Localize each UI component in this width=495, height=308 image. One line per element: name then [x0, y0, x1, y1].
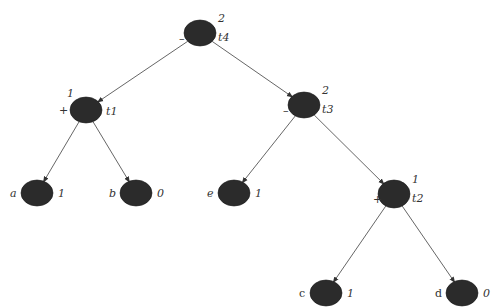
edges-layer	[43, 41, 454, 282]
node-name-label: t3	[322, 103, 333, 116]
leaf-value-label: 0	[157, 187, 164, 200]
leaf-value-label: 0	[483, 287, 490, 300]
tree-node-a: a1	[10, 180, 65, 206]
node-ellipse	[310, 280, 342, 306]
node-ellipse	[184, 20, 216, 46]
edge-t4-t3	[212, 41, 292, 97]
node-sign-label: +	[373, 193, 382, 206]
edge-t2-d	[402, 206, 455, 283]
node-ellipse	[218, 180, 250, 206]
node-ellipse	[120, 180, 152, 206]
node-name-label: t2	[412, 192, 423, 205]
node-value-label: 1	[412, 173, 419, 186]
leaf-name-label: e	[207, 187, 214, 200]
node-ellipse	[21, 180, 53, 206]
node-ellipse	[288, 92, 320, 118]
nodes-layer: 2t4–1+t12t3–1t2+a1b0e1c1d0	[10, 12, 490, 306]
tree-node-t3: 2t3–	[283, 84, 333, 118]
node-value-label: 1	[67, 87, 74, 100]
node-ellipse	[378, 180, 410, 208]
leaf-value-label: 1	[255, 187, 262, 200]
leaf-name-label: c	[299, 287, 305, 300]
tree-node-d: d0	[435, 280, 490, 306]
edge-t1-b	[93, 122, 130, 183]
node-value-label: 2	[321, 84, 329, 97]
node-ellipse	[446, 280, 478, 306]
tree-node-e: e1	[207, 180, 262, 206]
leaf-name-label: a	[10, 187, 17, 200]
tree-node-c: c1	[299, 280, 354, 306]
node-name-label: t1	[106, 105, 117, 118]
node-sign-label: –	[179, 32, 185, 45]
edge-t4-t1	[98, 41, 188, 102]
edge-t2-c	[333, 206, 386, 283]
node-name-label: t4	[218, 31, 229, 44]
node-value-label: 2	[217, 12, 225, 25]
tree-diagram: 2t4–1+t12t3–1t2+a1b0e1c1d0	[0, 0, 495, 308]
leaf-name-label: d	[435, 287, 442, 300]
edge-t1-a	[43, 122, 79, 182]
tree-node-b: b0	[109, 180, 164, 206]
node-ellipse	[70, 97, 102, 123]
edge-t3-e	[242, 116, 295, 183]
tree-node-t2: 1t2+	[373, 173, 423, 208]
tree-node-t4: 2t4–	[179, 12, 229, 46]
edge-t3-t2	[314, 115, 384, 184]
tree-node-t1: 1+t1	[59, 87, 117, 123]
node-sign-label: +	[59, 104, 68, 117]
leaf-name-label: b	[109, 187, 116, 200]
node-sign-label: –	[283, 104, 289, 117]
leaf-value-label: 1	[347, 287, 354, 300]
leaf-value-label: 1	[58, 187, 65, 200]
